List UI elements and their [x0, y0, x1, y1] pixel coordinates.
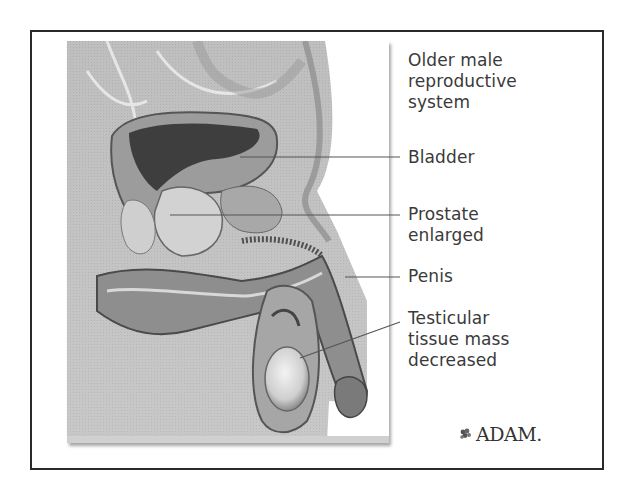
adam-logo: ADAM. [458, 423, 542, 445]
label-prostate: Prostate enlarged [408, 204, 484, 246]
adam-logo-text: ADAM. [476, 423, 542, 445]
label-penis: Penis [408, 266, 453, 287]
label-testicular: Testicular tissue mass decreased [408, 308, 510, 371]
label-bladder: Bladder [408, 147, 475, 168]
anatomical-illustration [67, 41, 389, 443]
figure-title: Older male reproductive system [408, 50, 517, 113]
grape-leaf-icon [458, 427, 474, 441]
